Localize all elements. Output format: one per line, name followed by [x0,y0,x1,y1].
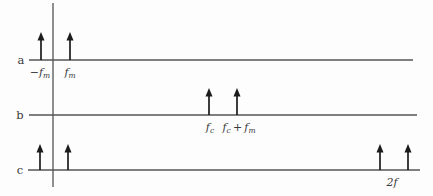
spectrum-row-c: c2f [17,144,420,189]
row-label-a: a [18,53,25,67]
impulse-label: −fm​ [30,66,50,80]
impulse-label: fm​ [63,66,75,80]
spectrum-diagram: a−fm​fm​bfc​fc​ + fm​c2f [0,0,433,196]
impulse [67,32,74,60]
row-label-b: b [16,108,23,122]
spectrum-row-b: bfc​fc​ + fm​ [16,88,417,135]
impulse-arrowhead-icon [37,144,44,153]
impulse [37,144,44,170]
impulse-label: 2f [385,176,399,189]
impulse [405,144,412,170]
impulse-arrowhead-icon [67,32,74,41]
impulse-label: fc​ [205,121,215,135]
impulse-arrowhead-icon [38,32,45,41]
impulse-arrowhead-icon [234,88,241,97]
impulse [38,32,45,60]
impulse-label: fc​ + fm​ [221,121,255,135]
impulse-arrowhead-icon [206,88,213,97]
impulse-arrowhead-icon [405,144,412,153]
impulse [234,88,241,115]
impulse-arrowhead-icon [377,144,384,153]
row-label-c: c [17,163,23,177]
figure-stage: a−fm​fm​bfc​fc​ + fm​c2f [0,0,433,196]
spectrum-row-a: a−fm​fm​ [18,32,413,80]
impulse [206,88,213,115]
impulse-arrowhead-icon [65,144,72,153]
impulse [377,144,384,170]
impulse [65,144,72,170]
